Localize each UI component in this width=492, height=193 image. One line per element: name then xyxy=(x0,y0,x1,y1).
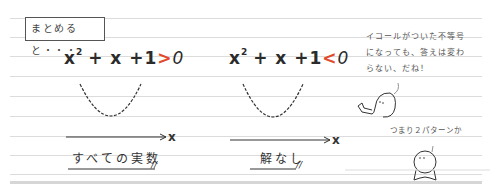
right-parabola xyxy=(243,84,303,117)
character-pointing-icon xyxy=(358,83,399,117)
speech-line: イコールがついた不等号 xyxy=(366,29,465,45)
left-parabola xyxy=(80,84,141,116)
left-end-mark: // xyxy=(151,160,157,170)
speech-line: になっても、答えは変わ xyxy=(366,45,465,61)
speech-note: イコールがついた不等号 になっても、答えは変わ らない、だね！ xyxy=(366,29,465,77)
notebook-page: まとめると・・・ x2 + x +1>0 x2 + x +1<0 xyxy=(0,0,492,193)
character-thinking-icon xyxy=(414,146,436,180)
second-comment: つまり２パターンか xyxy=(390,123,462,139)
right-end-mark: // xyxy=(296,160,302,170)
right-axis-label: x xyxy=(332,133,340,147)
left-axis-label: x xyxy=(168,130,176,144)
speech-line: らない、だね！ xyxy=(366,61,465,77)
left-answer: すべての実数 xyxy=(72,149,161,166)
